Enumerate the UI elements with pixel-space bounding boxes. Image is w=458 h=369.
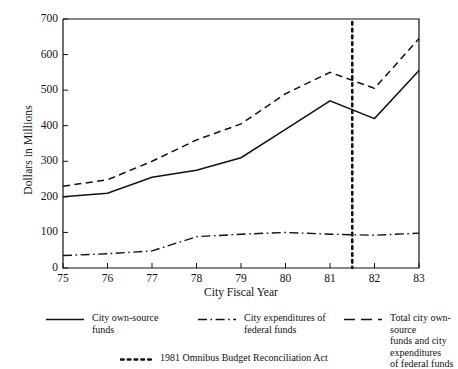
series-line-total <box>63 39 419 187</box>
x-tick-label: 79 <box>224 272 258 284</box>
series-line-own-source <box>63 71 419 197</box>
legend-label: City expenditures of federal funds <box>238 312 326 335</box>
x-axis-title: City Fiscal Year <box>63 286 419 298</box>
legend-swatch-dash-dot-icon <box>198 314 238 325</box>
legend-swatch-dotted-icon <box>120 354 154 365</box>
chart-figure: Dollars in Millions 0 100 200 300 400 50… <box>0 0 458 369</box>
x-tick-label: 75 <box>46 272 80 284</box>
x-tick-label: 78 <box>180 272 214 284</box>
x-tick-label: 82 <box>358 272 392 284</box>
series-line-federal-funds <box>63 232 419 255</box>
x-tick-marks <box>63 263 419 268</box>
x-tick-label: 76 <box>91 272 125 284</box>
x-tick-label: 83 <box>402 272 436 284</box>
chart-legend: City own-source funds City expenditures … <box>0 308 458 369</box>
legend-label: 1981 Omnibus Budget Reconciliation Act <box>154 352 328 364</box>
legend-item-own-source-funds: City own-source funds <box>46 312 196 335</box>
x-tick-label: 80 <box>269 272 303 284</box>
legend-label: City own-source funds <box>86 312 158 335</box>
axis-frame <box>63 19 419 268</box>
plot-area <box>63 19 419 268</box>
legend-swatch-solid-icon <box>46 314 86 325</box>
x-tick-label: 81 <box>313 272 347 284</box>
x-tick-label: 77 <box>135 272 169 284</box>
legend-item-obra-1981: 1981 Omnibus Budget Reconciliation Act <box>120 352 420 365</box>
y-tick-marks <box>63 19 68 268</box>
legend-swatch-dashed-icon <box>344 314 384 325</box>
legend-item-federal-funds: City expenditures of federal funds <box>198 312 353 335</box>
